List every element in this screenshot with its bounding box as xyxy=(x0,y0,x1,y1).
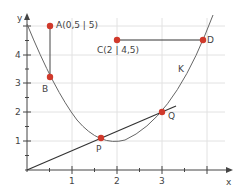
point-b xyxy=(47,74,53,80)
x-tick-3: 3 xyxy=(159,176,165,186)
x-axis-label: x xyxy=(226,177,232,187)
x-axis-arrow-icon xyxy=(226,167,233,173)
y-tick-2: 2 xyxy=(15,107,21,117)
label-b: B xyxy=(42,84,48,94)
curve-k-label: K xyxy=(178,64,185,74)
y-tick-4: 4 xyxy=(15,50,21,60)
coordinate-plot: 1 2 3 1 2 3 4 x y K A(0,5 | 5) B C(2 | 4… xyxy=(0,0,239,193)
grid xyxy=(27,18,225,170)
y-axis-arrow-icon xyxy=(24,13,30,20)
label-p: P xyxy=(96,144,102,154)
curve-k xyxy=(27,15,213,141)
x-tick-2: 2 xyxy=(114,176,120,186)
point-d xyxy=(200,37,206,43)
point-p xyxy=(98,135,104,141)
label-c: C(2 | 4,5) xyxy=(97,45,139,55)
label-q: Q xyxy=(168,111,175,121)
y-tick-1: 1 xyxy=(15,136,21,146)
point-a xyxy=(47,23,53,29)
y-axis-label: y xyxy=(17,13,23,23)
label-a: A(0,5 | 5) xyxy=(56,20,98,30)
point-q xyxy=(159,109,165,115)
y-tick-3: 3 xyxy=(15,78,21,88)
label-d: D xyxy=(207,35,214,45)
point-c xyxy=(114,37,120,43)
x-tick-1: 1 xyxy=(69,176,75,186)
